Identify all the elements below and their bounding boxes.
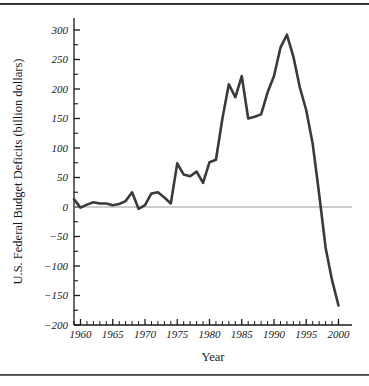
x-tick-label: 1980 (199, 328, 222, 340)
y-tick-label: 100 (52, 142, 69, 154)
y-tick-label: 50 (57, 171, 69, 183)
deficit-series-line (74, 35, 338, 306)
y-tick-label: −100 (44, 260, 68, 272)
y-tick-label: 300 (51, 24, 69, 36)
y-tick-label: −200 (44, 319, 68, 331)
y-tick-label: 0 (63, 201, 69, 213)
x-tick-label: 1975 (166, 328, 189, 340)
chart-figure: −200−150−100−50050100150200250300 196019… (0, 0, 369, 386)
y-tick-label: 250 (52, 53, 69, 65)
x-axis-title: Year (201, 350, 225, 364)
y-axis-title: U.S. Federal Budget Deficits (billion do… (11, 58, 25, 284)
y-tick-label: 200 (52, 83, 69, 95)
x-tick-label: 1995 (295, 328, 318, 340)
y-tick-label: −50 (50, 230, 69, 242)
x-tick-label: 1965 (102, 328, 125, 340)
y-tick-label: 150 (52, 112, 69, 124)
x-axis: 196019651970197519801985199019952000 (70, 319, 353, 340)
x-tick-label: 1985 (231, 328, 254, 340)
deficit-line-path (74, 35, 338, 306)
y-axis: −200−150−100−50050100150200250300 (44, 18, 80, 331)
x-tick-label: 2000 (328, 328, 351, 340)
x-tick-label: 1960 (70, 328, 93, 340)
budget-deficit-line-chart: −200−150−100−50050100150200250300 196019… (0, 0, 369, 386)
x-tick-label: 1990 (263, 328, 286, 340)
y-tick-label: −150 (44, 289, 68, 301)
x-tick-label: 1970 (134, 328, 157, 340)
